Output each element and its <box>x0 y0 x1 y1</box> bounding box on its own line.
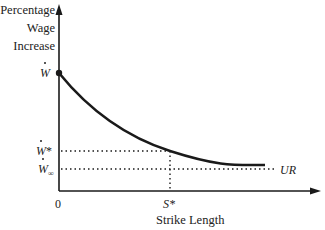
y-axis-label-line-3: Increase <box>13 40 55 53</box>
w-star-tick-label: W* <box>36 145 52 157</box>
w-inf-tick-label: W∞ <box>38 163 54 178</box>
w-star-symbol: W <box>36 145 46 157</box>
wage-strike-diagram: Percentage Wage Increase W W* W∞ 0 S* St… <box>0 0 325 230</box>
w-star-suffix: * <box>46 144 52 158</box>
wage-strike-curve <box>59 73 265 165</box>
y-axis-label-line-2: Wage <box>27 22 55 35</box>
y-axis-arrow-icon <box>56 4 63 15</box>
x-axis-arrow-icon <box>310 188 321 195</box>
w-dot-symbol: W <box>40 67 50 79</box>
s-star-tick-label: S* <box>163 198 175 210</box>
w-inf-symbol: W <box>38 163 48 175</box>
origin-label: 0 <box>55 198 61 210</box>
w-dot-tick-label: W <box>40 67 50 79</box>
y-axis-label-line-1: Percentage <box>0 4 55 17</box>
curve-start-point <box>56 70 62 76</box>
x-axis-label: Strike Length <box>156 214 224 227</box>
w-inf-subscript: ∞ <box>48 169 54 178</box>
ur-label: UR <box>280 164 296 176</box>
